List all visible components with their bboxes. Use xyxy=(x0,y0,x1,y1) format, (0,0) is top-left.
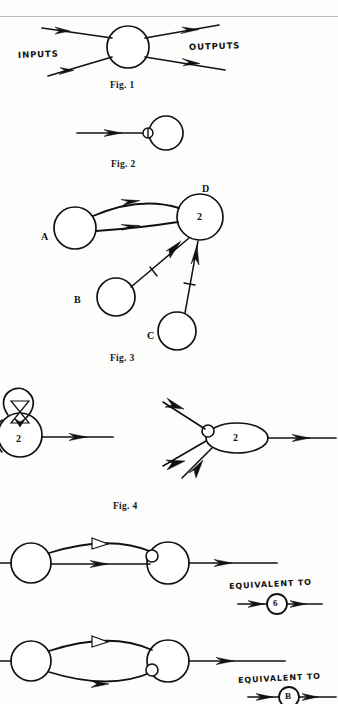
fig5top-right-neuron xyxy=(147,542,189,584)
fig3-edge-a-d-upper xyxy=(93,204,179,217)
fig3-edge-c-d-arrowhead xyxy=(191,245,199,265)
fig1-inputs-label: INPUTS xyxy=(18,49,59,60)
fig5bot-lower-connector xyxy=(49,672,152,682)
fig4-left-bowtie-upper-triangle xyxy=(11,401,29,412)
fig1-output-line-2 xyxy=(145,57,225,70)
fig2-caption: Fig. 2 xyxy=(111,159,136,169)
fig5top-upper-hollow-triangle xyxy=(92,538,108,549)
fig5top-synapse-junction xyxy=(146,550,158,562)
fig5top-equivalent-node-label: 6 xyxy=(273,598,278,608)
fig1-input-line-2 xyxy=(48,57,112,76)
fig4-left-node-label: 2 xyxy=(16,433,21,444)
fig5bot-equivalent-node-label: B xyxy=(285,691,291,701)
fig3-node-d-label: D xyxy=(202,183,209,194)
fig3-node-d-threshold: 2 xyxy=(197,211,202,222)
fig1-output-arrowhead-1 xyxy=(181,27,199,34)
scanned-page: INPUTS OUTPUTS Fig. 1 Fig. 2 A B C D 2 F… xyxy=(0,0,338,704)
fig3-node-a xyxy=(54,207,96,249)
fig4-right-synapse-junction xyxy=(202,425,214,437)
fig3-caption: Fig. 3 xyxy=(110,353,135,363)
fig4-caption: Fig. 4 xyxy=(113,501,138,511)
fig3-node-b-label: B xyxy=(74,294,81,305)
fig3-node-c xyxy=(158,312,196,350)
fig3-node-a-label: A xyxy=(41,231,48,242)
fig4-right-node-label: 2 xyxy=(233,432,238,443)
fig4-right-input-line-2 xyxy=(163,441,206,466)
fig3-edge-c-d-inhibit-cross xyxy=(184,283,195,285)
fig3-edge-b-d xyxy=(131,238,189,287)
fig3-node-c-label: C xyxy=(147,330,154,341)
fig5bot-upper-hollow-triangle xyxy=(92,636,108,647)
fig1-neuron xyxy=(107,26,149,68)
fig1-outputs-label: OUTPUTS xyxy=(189,40,241,52)
fig2-neuron xyxy=(149,116,183,150)
fig5bot-synapse-junction xyxy=(146,664,158,676)
fig4-right-input-arrowhead-2 xyxy=(166,460,185,470)
fig1-input-line-1 xyxy=(42,28,112,38)
fig3-node-b xyxy=(97,278,135,316)
fig1-drawing xyxy=(0,0,338,704)
fig1-caption: Fig. 1 xyxy=(110,80,135,90)
fig4-right-input-arrowhead-1 xyxy=(165,398,184,409)
fig5top-left-neuron xyxy=(11,543,51,583)
fig5bot-left-neuron xyxy=(11,641,51,681)
